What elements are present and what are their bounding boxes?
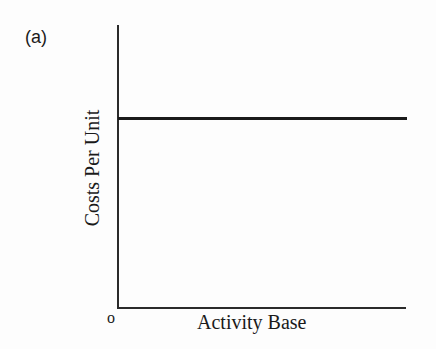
panel-label: (a) [25, 28, 47, 46]
x-axis [117, 307, 406, 309]
y-axis-label: Costs Per Unit [82, 110, 102, 227]
x-axis-label: Activity Base [197, 312, 306, 332]
chart-figure: (a) o Activity Base Costs Per Unit [0, 0, 436, 349]
y-axis [117, 25, 119, 309]
constant-cost-line [118, 117, 407, 120]
origin-label: o [107, 310, 115, 326]
